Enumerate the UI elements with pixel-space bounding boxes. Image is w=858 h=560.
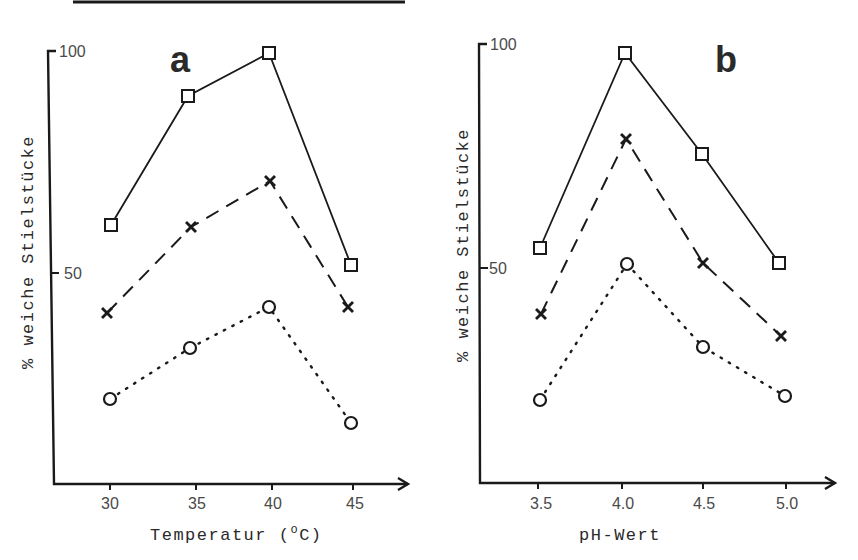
- cross-marker-icon: [536, 309, 546, 319]
- panel-a-series-circle-line: [110, 307, 351, 423]
- cross-marker-icon: [102, 308, 112, 318]
- cross-marker-icon: [776, 331, 786, 341]
- circle-marker-icon: [345, 417, 357, 429]
- square-marker-icon: [619, 47, 631, 59]
- panel-a-xtick-label: 30: [101, 495, 119, 512]
- panel-a-ytick-label-100: 100: [59, 43, 86, 60]
- panel-a-ytick-label-50: 50: [64, 265, 82, 282]
- panel-b-ytick-label-100: 100: [490, 36, 517, 53]
- cross-marker-icon: [265, 176, 275, 186]
- panel-b-ytick-label-50: 50: [489, 260, 507, 277]
- panel-b-xtick-label: 5.0: [776, 495, 798, 512]
- circle-marker-icon: [534, 394, 546, 406]
- square-marker-icon: [105, 219, 117, 231]
- panel-a-xlabel: Temperatur (oC): [150, 523, 323, 545]
- square-marker-icon: [696, 148, 708, 160]
- panel-a-ylabel: % weiche Stielstücke: [19, 135, 38, 369]
- panel-b-series-circle-line: [540, 264, 785, 400]
- panel-a-xtick-label: 40: [264, 495, 282, 512]
- panel-b-xtick-label: 4.5: [693, 495, 715, 512]
- cross-marker-icon: [343, 302, 353, 312]
- panel-b-series-cross-line: [541, 139, 781, 336]
- panel-a-xtick-label: 45: [346, 495, 364, 512]
- panel-b-xtick-label: 3.5: [530, 495, 552, 512]
- square-marker-icon: [345, 259, 357, 271]
- square-marker-icon: [263, 47, 275, 59]
- panel-a-series-square-line: [111, 53, 351, 265]
- circle-marker-icon: [779, 390, 791, 402]
- panel-b-xtick-label: 4.0: [612, 495, 634, 512]
- square-marker-icon: [773, 257, 785, 269]
- panel-a-xtick-label: 35: [188, 495, 206, 512]
- figure-canvas: 100 50 30 35 40 45 Temperatur (oC) % wei…: [0, 0, 858, 560]
- cross-marker-icon: [186, 222, 196, 232]
- circle-marker-icon: [104, 393, 116, 405]
- cross-marker-icon: [621, 134, 631, 144]
- panel-a-letter: a: [170, 39, 191, 80]
- panel-b-ylabel: % weiche Stielstücke: [454, 128, 473, 362]
- panel-b-series-square-line: [540, 53, 779, 263]
- square-marker-icon: [182, 90, 194, 102]
- circle-marker-icon: [697, 341, 709, 353]
- circle-marker-icon: [184, 342, 196, 354]
- panel-b: 100 50 3.5 4.0 4.5 5.0 pH-Wert % weiche …: [454, 36, 835, 545]
- cross-marker-icon: [698, 258, 708, 268]
- panel-b-letter: b: [715, 39, 737, 80]
- circle-marker-icon: [263, 301, 275, 313]
- panel-b-xlabel: pH-Wert: [579, 526, 661, 545]
- square-marker-icon: [534, 242, 546, 254]
- panel-a-series-cross-line: [107, 181, 348, 313]
- figure: 100 50 30 35 40 45 Temperatur (oC) % wei…: [0, 0, 858, 560]
- panel-a: 100 50 30 35 40 45 Temperatur (oC) % wei…: [19, 39, 408, 545]
- circle-marker-icon: [621, 258, 633, 270]
